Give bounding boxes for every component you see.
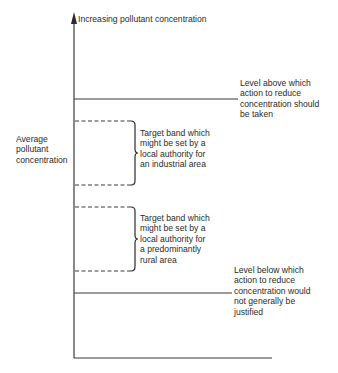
industrial-band-brace-icon	[131, 121, 138, 185]
rural-band-brace-icon	[131, 207, 138, 271]
pollutant-concentration-diagram	[0, 0, 338, 373]
industrial-band-label: Target band which might be set by a loca…	[140, 128, 210, 170]
upper-threshold-label: Level above which action to reduce conce…	[240, 78, 319, 120]
y-axis-title: Increasing pollutant concentration	[78, 14, 207, 24]
y-axis-arrow-icon	[71, 12, 77, 24]
lower-threshold-label: Level below which action to reduce conce…	[234, 265, 310, 317]
y-axis-label: Average pollutant concentration	[16, 134, 68, 165]
rural-band-label: Target band which might be set by a loca…	[140, 213, 210, 265]
